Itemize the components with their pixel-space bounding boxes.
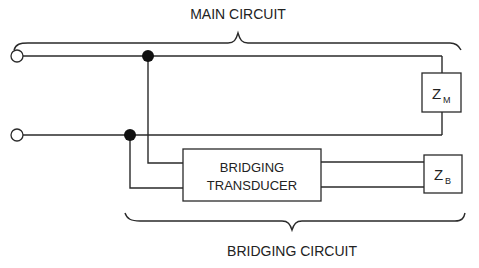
circuit-diagram: Z M Z B BRIDGING TRANSDUCER MAIN CIRCUIT… xyxy=(0,0,479,268)
transducer-label-2: TRANSDUCER xyxy=(207,178,297,193)
junction-node-top xyxy=(142,50,154,62)
branch-wire-2 xyxy=(130,135,183,188)
main-circuit-brace xyxy=(14,33,461,50)
terminal-bottom xyxy=(11,129,23,141)
zm-subscript: M xyxy=(443,95,451,105)
transducer-label-1: BRIDGING xyxy=(220,160,284,175)
diagram-svg: Z M Z B BRIDGING TRANSDUCER MAIN CIRCUIT… xyxy=(0,0,479,268)
terminal-top xyxy=(11,50,23,62)
zb-subscript: B xyxy=(445,176,451,186)
bridging-circuit-label: BRIDGING CIRCUIT xyxy=(227,243,357,259)
zm-label: Z xyxy=(432,85,441,102)
junction-node-bottom xyxy=(124,129,136,141)
branch-wire-1 xyxy=(148,56,183,163)
zb-label: Z xyxy=(434,166,443,183)
main-circuit-label: MAIN CIRCUIT xyxy=(190,6,286,22)
impedance-zm-box xyxy=(422,73,461,112)
bridging-transducer-box xyxy=(183,149,321,201)
bridging-circuit-brace xyxy=(125,213,465,230)
